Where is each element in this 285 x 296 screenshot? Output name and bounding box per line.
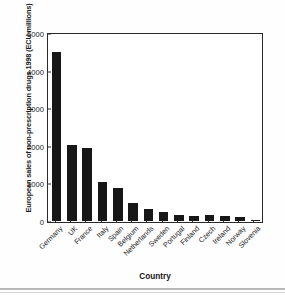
bar <box>82 148 91 221</box>
x-tick-mark <box>253 220 254 223</box>
bar-series <box>49 35 261 221</box>
x-axis-title: Country <box>47 272 263 281</box>
plot-area: 010002000300040005000 <box>47 33 263 223</box>
bar <box>113 188 122 221</box>
page-rule-secondary <box>0 292 285 293</box>
x-tick-mark <box>192 220 193 223</box>
y-tick-label: 3000 <box>27 105 48 114</box>
x-tick-mark <box>162 220 163 223</box>
y-tick-label: 1000 <box>27 180 48 189</box>
bar <box>98 182 107 221</box>
x-tick-mark <box>223 220 224 223</box>
x-tick-mark <box>177 220 178 223</box>
bar <box>52 52 61 221</box>
bar <box>251 220 260 221</box>
x-tick-mark <box>146 220 147 223</box>
bar <box>67 145 76 221</box>
y-tick-label: 2000 <box>27 142 48 151</box>
y-tick-mark <box>48 222 51 223</box>
x-tick-mark <box>131 220 132 223</box>
bar <box>159 212 168 221</box>
y-tick-label: 4000 <box>27 67 48 76</box>
x-tick-mark <box>101 220 102 223</box>
x-tick-mark <box>85 220 86 223</box>
y-tick-label: 5000 <box>27 30 48 39</box>
x-tick-mark <box>55 220 56 223</box>
bar <box>235 217 244 221</box>
page-rule <box>0 288 285 290</box>
bar <box>128 203 137 221</box>
bar <box>220 216 229 221</box>
x-tick-mark <box>116 220 117 223</box>
bar <box>189 216 198 221</box>
bar <box>174 215 183 221</box>
x-tick-mark <box>238 220 239 223</box>
x-axis-ticks: GermanyUKFranceItalySpainBelgiumNetherla… <box>47 224 263 270</box>
bar <box>144 209 153 221</box>
x-tick-mark <box>208 220 209 223</box>
bar <box>205 215 214 221</box>
figure-root: European sales of non-prescription drugs… <box>0 0 285 296</box>
x-tick-mark <box>70 220 71 223</box>
